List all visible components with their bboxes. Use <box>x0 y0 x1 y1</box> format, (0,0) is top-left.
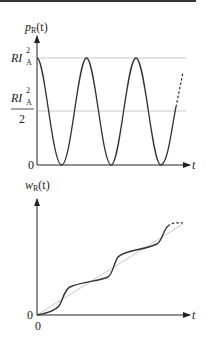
y-axis-label-2: wR(t) <box>25 178 50 193</box>
y-axis-label: pR(t) <box>24 20 48 35</box>
svg-text:RI: RI <box>10 91 23 105</box>
figure: pR(t) t 0 RI 2 A RI 2 A 2 wR(t) t 0 <box>0 0 208 339</box>
svg-text:A: A <box>26 58 32 67</box>
energy-curve <box>37 226 168 315</box>
power-curve-dashed <box>176 72 183 107</box>
svg-text:2: 2 <box>19 112 25 126</box>
svg-text:2: 2 <box>26 86 30 95</box>
svg-text:RI: RI <box>10 51 23 65</box>
svg-text:A: A <box>26 98 32 107</box>
tick-zero: 0 <box>28 158 34 172</box>
power-curve <box>37 58 176 165</box>
x-axis-label: t <box>192 158 196 172</box>
svg-text:2: 2 <box>26 46 30 55</box>
chart-power: pR(t) t 0 RI 2 A RI 2 A 2 <box>10 20 196 172</box>
tick-max: RI 2 A <box>10 46 32 67</box>
x-origin-label: 0 <box>35 319 41 333</box>
y-origin-label: 0 <box>27 308 33 322</box>
tick-half: RI 2 A 2 <box>10 86 34 126</box>
x-axis-label-2: t <box>192 308 196 322</box>
chart-energy: wR(t) t 0 0 <box>25 178 196 333</box>
